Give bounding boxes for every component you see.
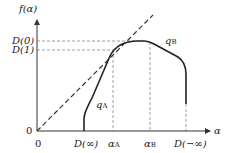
- x-axis-label: α: [214, 126, 221, 136]
- diagonal-dashed-line: [37, 15, 153, 131]
- x-tick-alpha-a: αA: [108, 139, 120, 149]
- curve-label-qa: qA: [96, 100, 107, 110]
- spectrum-curve: [84, 41, 186, 131]
- curve-label-qb: qB: [165, 36, 177, 46]
- y-tick-d1: D(1): [12, 45, 34, 55]
- origin-x-label: 0: [35, 139, 41, 149]
- y-axis-label: f(α): [19, 4, 37, 14]
- x-tick-d-neg-inf: D(−∞): [174, 139, 207, 149]
- origin-y-label: 0: [26, 126, 32, 136]
- multifractal-spectrum-diagram: [0, 0, 233, 153]
- x-tick-alpha-b: αB: [144, 139, 156, 149]
- x-tick-d-inf: D(∞): [74, 139, 98, 149]
